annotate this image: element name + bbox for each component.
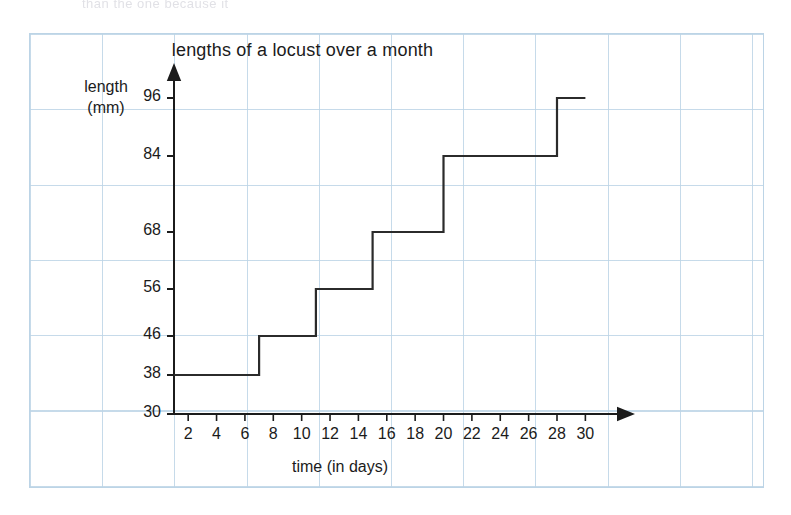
y-tick-label-30: 30: [125, 403, 161, 421]
x-tick-label-4: 4: [205, 425, 229, 443]
x-tick-label-20: 20: [432, 425, 456, 443]
x-tick-label-26: 26: [517, 425, 541, 443]
x-tick-label-24: 24: [488, 425, 512, 443]
axes-group: [174, 66, 632, 414]
x-tick-label-22: 22: [460, 425, 484, 443]
x-tick-label-8: 8: [261, 425, 285, 443]
x-tick-label-6: 6: [233, 425, 257, 443]
step-line-series: [174, 98, 585, 375]
x-tick-label-2: 2: [176, 425, 200, 443]
y-tick-label-38: 38: [125, 364, 161, 382]
x-tick-label-14: 14: [346, 425, 370, 443]
y-tick-label-68: 68: [125, 221, 161, 239]
y-tick-label-96: 96: [125, 87, 161, 105]
y-tick-label-46: 46: [125, 325, 161, 343]
x-tick-label-12: 12: [318, 425, 342, 443]
x-tick-label-16: 16: [375, 425, 399, 443]
y-tick-label-56: 56: [125, 278, 161, 296]
x-tick-label-28: 28: [545, 425, 569, 443]
x-ticks-group: [188, 414, 585, 421]
y-tick-label-84: 84: [125, 145, 161, 163]
x-tick-label-18: 18: [403, 425, 427, 443]
y-ticks-group: [167, 98, 174, 414]
x-tick-label-30: 30: [573, 425, 597, 443]
x-tick-label-10: 10: [290, 425, 314, 443]
